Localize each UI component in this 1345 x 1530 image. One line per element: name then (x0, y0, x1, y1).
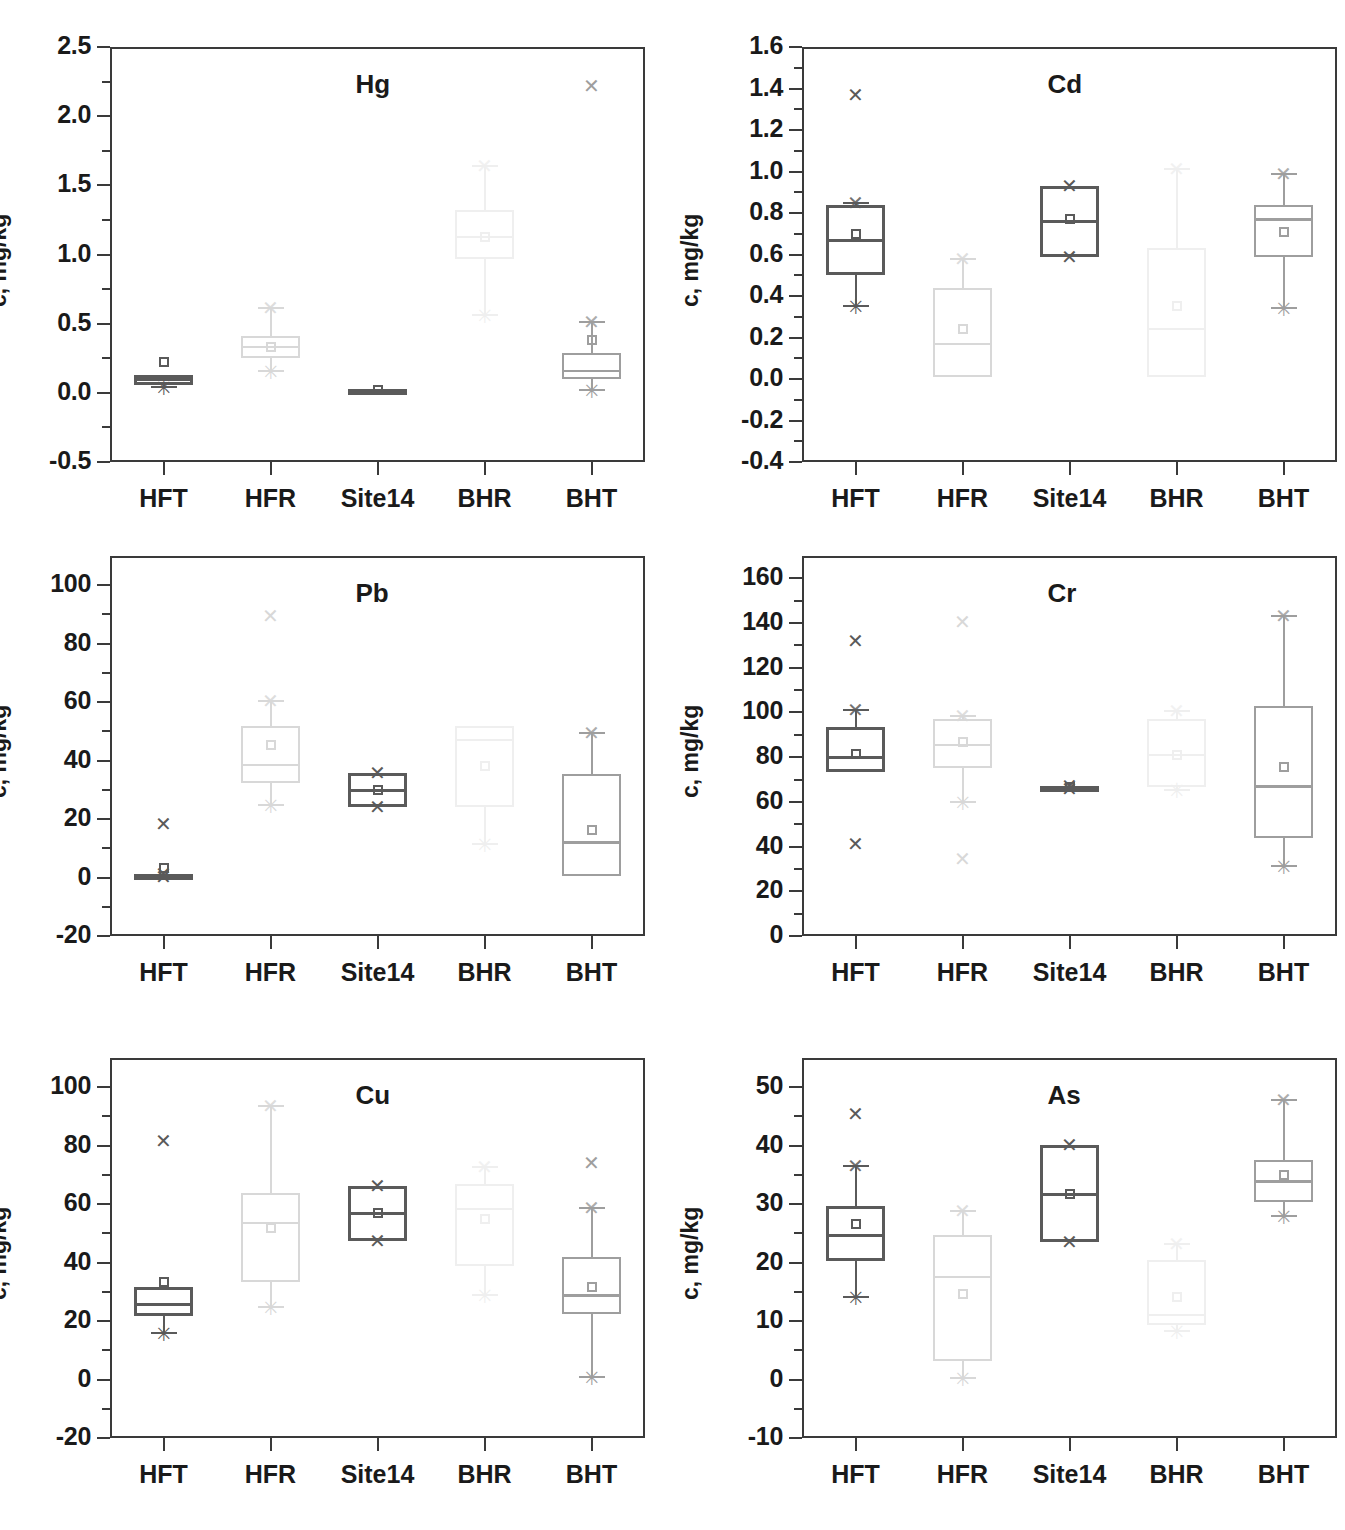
median-line (1254, 1180, 1314, 1183)
box-edge-marker: ✕ (1059, 1232, 1081, 1252)
x-tick-major (1283, 1438, 1285, 1451)
whisker-end-marker-upper: ✕ (1273, 1090, 1295, 1110)
y-tick-label: 40 (695, 1130, 783, 1159)
panel-as: -1001020304050c, mg/kgAsHFTHFRSite14BHRB… (0, 0, 1345, 1530)
whisker-end-marker-lower: ✳ (951, 1368, 975, 1389)
y-tick-major (789, 1379, 802, 1381)
y-tick-label: 30 (695, 1188, 783, 1217)
whisker-end-marker-upper: ✕ (1166, 1234, 1188, 1254)
median-line (1147, 1314, 1207, 1316)
mean-marker (958, 1289, 968, 1299)
mean-marker (851, 1219, 861, 1229)
median-line (826, 1234, 886, 1237)
y-tick-major (789, 1320, 802, 1322)
y-tick-label: 20 (695, 1247, 783, 1276)
y-tick-major (789, 1437, 802, 1439)
median-line (933, 1276, 993, 1278)
y-axis-title: c, mg/kg (677, 1207, 704, 1300)
y-tick-label: 0 (695, 1364, 783, 1393)
whisker-end-marker-upper: ✕ (952, 1201, 974, 1221)
y-tick-minor (794, 1408, 802, 1410)
mean-marker (1279, 1170, 1289, 1180)
y-tick-major (789, 1086, 802, 1088)
whisker-end-marker-lower: ✳ (844, 1287, 868, 1308)
y-tick-minor (794, 1115, 802, 1117)
x-tick-label-bht: BHT (1204, 1460, 1345, 1489)
whisker-end-marker-lower: ✳ (1272, 1206, 1296, 1227)
y-tick-major (789, 1145, 802, 1147)
y-tick-minor (794, 1174, 802, 1176)
y-tick-label: 50 (695, 1071, 783, 1100)
x-tick-major (855, 1438, 857, 1451)
mean-marker (1065, 1189, 1075, 1199)
y-tick-major (789, 1203, 802, 1205)
boxplot-figure: -0.50.00.51.01.52.02.5c, mg/kgHgHFTHFRSi… (0, 0, 1345, 1530)
x-tick-major (962, 1438, 964, 1451)
y-tick-label: -10 (695, 1422, 783, 1451)
panel-title: As (1048, 1080, 1081, 1111)
whisker-end-marker-upper: ✕ (845, 1156, 867, 1176)
outlier-marker: ✕ (845, 1104, 867, 1124)
y-tick-minor (794, 1232, 802, 1234)
mean-marker (1172, 1292, 1182, 1302)
x-tick-major (1069, 1438, 1071, 1451)
x-tick-major (1176, 1438, 1178, 1451)
y-tick-major (789, 1262, 802, 1264)
y-tick-minor (794, 1291, 802, 1293)
y-tick-minor (794, 1349, 802, 1351)
box-edge-marker: ✕ (1059, 1135, 1081, 1155)
y-tick-label: 10 (695, 1305, 783, 1334)
